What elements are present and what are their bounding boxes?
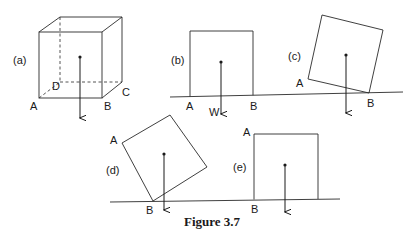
corner-label-c: C: [122, 86, 130, 98]
panel-label: (d): [106, 164, 119, 176]
weight-label: W: [209, 106, 220, 118]
diagram-svg: (a) D A B C (b) A B W (c) A B: [0, 0, 418, 238]
corner-label-d: D: [52, 80, 60, 92]
panel-e-box: (e) A B: [233, 126, 318, 215]
panel-label: (a): [13, 54, 26, 66]
panel-c-box: (c) A B: [288, 15, 383, 113]
panel-a-cube: (a) D A B C: [13, 17, 130, 118]
figure-3-7: (a) D A B C (b) A B W (c) A B: [0, 0, 418, 238]
cube-top-left-edge: [39, 17, 60, 32]
panel-label: (e): [233, 161, 246, 173]
corner-label-b: B: [146, 204, 153, 216]
corner-label-b: B: [250, 100, 257, 112]
panel-b-box: (b) A B W: [171, 31, 257, 118]
corner-label-a: A: [296, 77, 304, 89]
corner-label-a: A: [30, 100, 38, 112]
panel-label: (b): [171, 54, 184, 66]
corner-label-a: A: [243, 126, 251, 138]
cube-top-right-edge: [102, 17, 122, 32]
corner-label-a: A: [110, 134, 118, 146]
cube-front-face: [39, 32, 102, 98]
cube-bottom-right-edge: [102, 82, 122, 98]
box-outline: [254, 134, 318, 200]
corner-label-b: B: [104, 100, 111, 112]
panel-label: (c): [288, 50, 301, 62]
corner-label-b: B: [251, 203, 258, 215]
corner-label-b: B: [367, 97, 374, 109]
figure-caption: Figure 3.7: [184, 214, 241, 229]
corner-label-a: A: [186, 100, 194, 112]
ground-line-bottom: [110, 199, 340, 202]
